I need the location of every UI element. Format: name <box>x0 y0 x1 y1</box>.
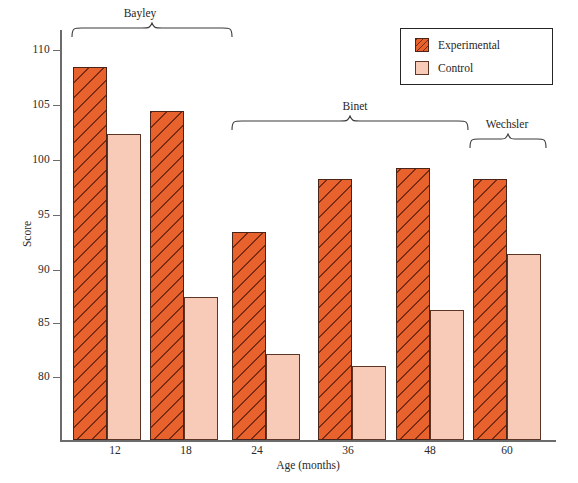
y-tick-label-85: 85 <box>10 316 50 328</box>
bar-experimental-18 <box>150 111 184 440</box>
y-tick-mark-95 <box>53 215 60 216</box>
legend-item-experimental: Experimental <box>415 38 500 52</box>
bracket-label-bayley: Bayley <box>100 7 180 19</box>
x-tick-label-18: 18 <box>156 444 216 456</box>
y-tick-mark-80 <box>53 377 60 378</box>
bar-control-60 <box>507 254 541 440</box>
bar-control-12 <box>107 134 141 440</box>
y-tick-mark-100 <box>53 160 60 161</box>
legend: Experimental Control <box>400 28 553 85</box>
x-axis-line <box>60 440 556 442</box>
x-axis-title: Age (months) <box>60 459 556 471</box>
legend-item-control: Control <box>415 61 473 75</box>
legend-label-experimental: Experimental <box>438 39 500 51</box>
bracket-binet <box>230 115 470 131</box>
bar-chart: 110 105 100 95 90 85 80 Score Age (month… <box>0 0 578 483</box>
y-tick-label-80: 80 <box>10 370 50 382</box>
bar-control-18 <box>184 297 218 440</box>
bar-experimental-60 <box>473 179 507 440</box>
bar-experimental-48 <box>396 168 430 440</box>
legend-swatch-experimental-icon <box>415 38 429 52</box>
y-tick-mark-105 <box>53 105 60 106</box>
bar-experimental-24 <box>232 232 266 440</box>
y-tick-mark-110 <box>53 50 60 51</box>
bar-control-48 <box>430 310 464 440</box>
x-tick-label-48: 48 <box>400 444 460 456</box>
bar-experimental-12 <box>73 67 107 440</box>
legend-label-control: Control <box>438 62 473 74</box>
y-tick-label-105: 105 <box>10 98 50 110</box>
y-axis-line <box>60 30 62 441</box>
bracket-bayley <box>70 22 234 38</box>
x-tick-label-24: 24 <box>227 444 287 456</box>
bar-control-36 <box>352 366 386 440</box>
legend-swatch-control-icon <box>415 61 429 75</box>
y-tick-mark-85 <box>53 323 60 324</box>
y-axis-title: Score <box>21 199 33 269</box>
x-tick-label-60: 60 <box>477 444 537 456</box>
bracket-wechsler <box>468 133 548 149</box>
bracket-label-binet: Binet <box>315 100 395 112</box>
y-tick-mark-90 <box>53 270 60 271</box>
y-tick-label-100: 100 <box>10 153 50 165</box>
bracket-label-wechsler: Wechsler <box>467 118 547 130</box>
bar-experimental-36 <box>318 179 352 440</box>
y-tick-label-110: 110 <box>10 43 50 55</box>
bar-control-24 <box>266 354 300 440</box>
x-tick-label-12: 12 <box>85 444 145 456</box>
x-tick-label-36: 36 <box>318 444 378 456</box>
